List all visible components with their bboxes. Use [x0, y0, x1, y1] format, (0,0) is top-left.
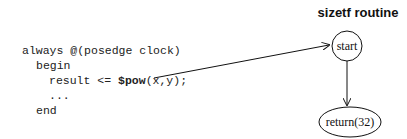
diagram-canvas: always @(posedge clock) begin result <= … [0, 0, 407, 139]
start-label: start [337, 39, 358, 53]
return-label: return(32) [326, 115, 375, 129]
flow-graphic: sizetf routine start return(32) [0, 0, 407, 139]
call-arrow [154, 45, 329, 78]
routine-title: sizetf routine [318, 5, 399, 20]
